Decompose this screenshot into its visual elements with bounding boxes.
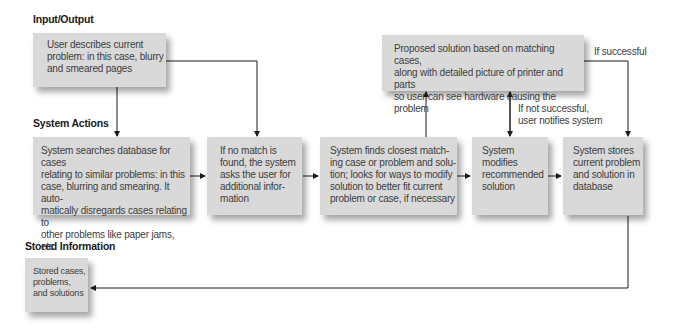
box-text: System finds closest match- ing case or … xyxy=(330,145,457,205)
box-text: System modifies recommended solution xyxy=(482,145,548,193)
box-proposed-solution: Proposed solution based on matching case… xyxy=(382,35,584,91)
edge-label-if-not-successful: If not successful, user notifies system xyxy=(518,103,602,127)
box-system-stores-solution: System stores current problem and soluti… xyxy=(563,137,643,215)
edge-label-if-successful: If successful xyxy=(594,46,646,58)
box-text: System searches database for cases relat… xyxy=(41,145,190,253)
box-text: System stores current problem and soluti… xyxy=(573,145,643,193)
box-stored-cases: Stored cases, problems, and solutions xyxy=(25,258,88,312)
box-text: If no match is found, the system asks th… xyxy=(220,145,302,205)
box-text: User describes current problem: in this … xyxy=(47,39,166,75)
box-system-modifies-solution: System modifies recommended solution xyxy=(472,137,548,215)
box-text: Stored cases, problems, and solutions xyxy=(33,266,88,299)
box-system-searches-database: System searches database for cases relat… xyxy=(33,137,190,215)
box-no-match-found: If no match is found, the system asks th… xyxy=(207,137,302,215)
box-user-describes-problem: User describes current problem: in this … xyxy=(33,33,166,87)
box-system-finds-closest-match: System finds closest match- ing case or … xyxy=(320,137,457,215)
